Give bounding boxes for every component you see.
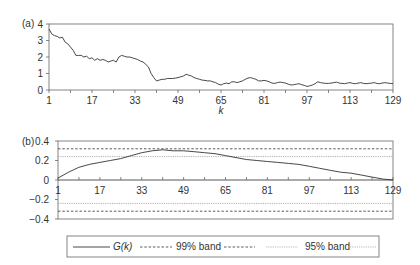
panel-a-label: (a) <box>22 18 34 29</box>
x-tick-label: 17 <box>86 95 98 106</box>
x-tick-label: 97 <box>304 185 316 196</box>
x-tick-label: 49 <box>178 185 190 196</box>
panel-a-x-axis-label: k <box>219 105 225 116</box>
x-tick-label: 33 <box>136 185 148 196</box>
y-tick-label: 0.4 <box>35 136 49 147</box>
x-tick-label: 33 <box>129 95 141 106</box>
panel-a: (a) 01234 1173349658197113129 k <box>22 18 402 116</box>
x-tick-label: 81 <box>262 185 274 196</box>
x-tick-label: 129 <box>385 185 402 196</box>
panel-b: (b) −0.4−0.200.20.4 1173349658197113129 <box>22 136 402 225</box>
x-tick-label: 129 <box>385 95 402 106</box>
y-tick-label: 2 <box>37 52 43 63</box>
y-tick-label: 0 <box>43 175 49 186</box>
panel-b-g-k-line <box>58 150 393 180</box>
x-tick-label: 81 <box>258 95 270 106</box>
x-tick-label: 113 <box>342 95 358 106</box>
legend-g-k-label: G(k) <box>113 241 132 252</box>
chart-canvas: (a) 01234 1173349658197113129 k (b) −0.4… <box>0 0 420 265</box>
x-tick-label: 97 <box>301 95 313 106</box>
y-tick-label: −0.4 <box>29 214 49 225</box>
y-tick-label: 3 <box>37 35 43 46</box>
legend-99-band-label: 99% band <box>176 241 221 252</box>
panel-b-label: (b) <box>22 136 34 147</box>
x-tick-label: 65 <box>220 185 232 196</box>
x-tick-label: 17 <box>94 185 106 196</box>
y-tick-label: 4 <box>37 19 43 30</box>
y-tick-label: 1 <box>37 68 43 79</box>
x-tick-label: 49 <box>172 95 184 106</box>
panel-a-y-axis: 01234 <box>37 19 49 96</box>
legend-95-band-label: 95% band <box>305 241 350 252</box>
x-tick-label: 1 <box>46 95 52 106</box>
y-tick-label: −0.2 <box>29 194 49 205</box>
x-tick-label: 1 <box>55 185 61 196</box>
chart-legend: G(k) 99% band 95% band <box>67 236 379 257</box>
panel-b-y-axis: −0.4−0.200.20.4 <box>29 136 58 225</box>
panel-a-frame <box>49 24 393 90</box>
panel-b-x-axis: 1173349658197113129 <box>55 177 402 196</box>
y-tick-label: 0.2 <box>35 155 49 166</box>
y-tick-label: 0 <box>37 85 43 96</box>
panel-a-series-line <box>49 29 393 87</box>
x-tick-label: 113 <box>343 185 359 196</box>
panel-a-x-axis: 1173349658197113129 <box>46 90 402 106</box>
